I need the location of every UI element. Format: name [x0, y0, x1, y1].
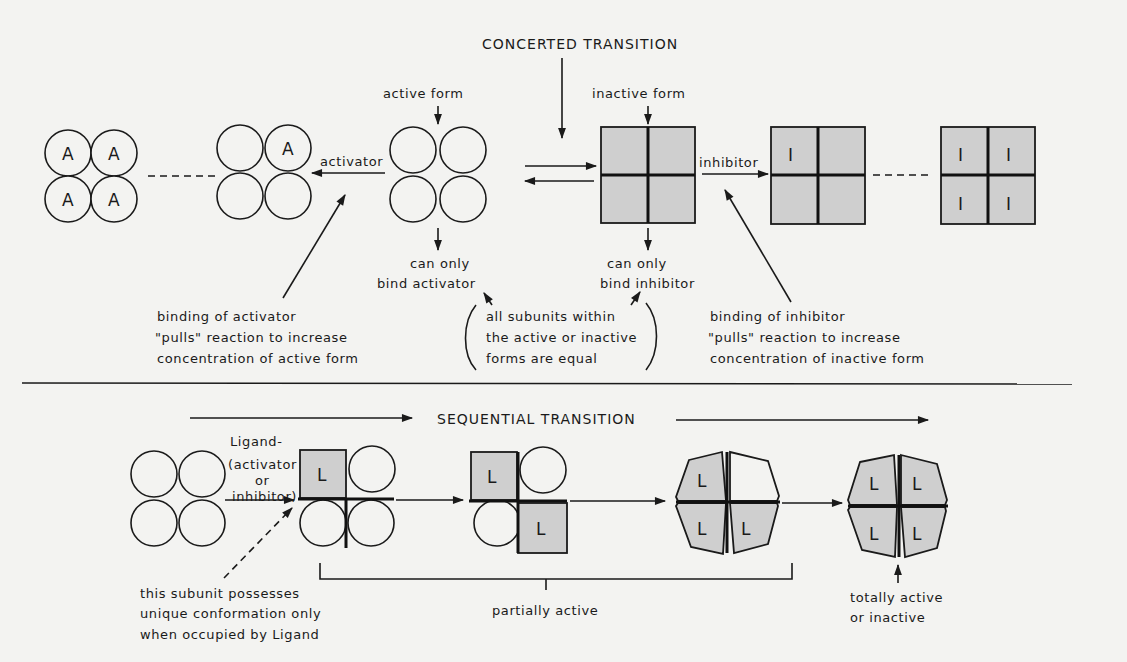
svg-text:concentration of active form: concentration of active form [157, 351, 359, 366]
svg-text:this subunit possesses: this subunit possesses [140, 586, 300, 601]
sequential-fully-bound: L L L L [848, 455, 948, 557]
svg-text:A: A [282, 139, 294, 159]
svg-text:unique conformation only: unique conformation only [140, 606, 321, 621]
subunit-note: this subunit possesses unique conformati… [140, 586, 321, 642]
svg-text:Ligand-: Ligand- [230, 434, 282, 449]
sequential-title: SEQUENTIAL TRANSITION [437, 411, 636, 427]
svg-text:or inactive: or inactive [850, 610, 925, 625]
svg-text:A: A [62, 190, 74, 210]
svg-text:the active or inactive: the active or inactive [486, 330, 637, 345]
svg-text:A: A [62, 144, 74, 164]
ligand-label: Ligand- (activator or inhibitor) [228, 434, 297, 504]
inhibitor-note: binding of inhibitor "pulls" reaction to… [708, 309, 925, 366]
subunit-note-pointer [224, 508, 292, 578]
svg-text:bind activator: bind activator [377, 276, 476, 291]
concerted-section: CONCERTED TRANSITION A A A A A activator… [45, 36, 1035, 370]
svg-text:L: L [869, 474, 879, 494]
svg-text:L: L [912, 524, 922, 544]
sequential-two-ligands: L L [469, 447, 567, 553]
svg-text:can only: can only [410, 256, 470, 271]
svg-text:L: L [536, 519, 546, 539]
svg-text:forms are equal: forms are equal [486, 351, 597, 366]
svg-text:bind inhibitor: bind inhibitor [600, 276, 695, 291]
activator-note: binding of activator "pulls" reaction to… [155, 309, 359, 366]
svg-text:when occupied by Ligand: when occupied by Ligand [140, 627, 319, 642]
svg-text:binding of activator: binding of activator [157, 309, 296, 324]
svg-text:I: I [1006, 194, 1011, 214]
inactive-form-label: inactive form [592, 86, 686, 101]
partially-active-label: partially active [492, 603, 598, 618]
svg-text:concentration of inactive form: concentration of inactive form [710, 351, 925, 366]
inactive-form-tetramer [601, 127, 695, 223]
svg-text:inhibitor): inhibitor) [232, 489, 297, 504]
svg-text:(activator: (activator [228, 457, 297, 472]
svg-text:L: L [697, 519, 707, 539]
svg-text:I: I [788, 145, 793, 165]
tetramer-fully-activated: A A A A [45, 130, 137, 222]
svg-text:A: A [108, 144, 120, 164]
svg-text:I: I [958, 145, 963, 165]
equal-subunits-note: all subunits within the active or inacti… [466, 292, 657, 370]
svg-text:"pulls" reaction to increase: "pulls" reaction to increase [708, 330, 901, 345]
tetramer-fully-inhibited: I I I I [941, 127, 1035, 224]
sequential-one-ligand: L [298, 446, 395, 548]
svg-text:L: L [869, 524, 879, 544]
active-form-label: active form [383, 86, 464, 101]
tetramer-one-activator: A [217, 125, 311, 219]
svg-text:all subunits within: all subunits within [486, 309, 616, 324]
concerted-title: CONCERTED TRANSITION [482, 36, 678, 52]
section-divider [22, 383, 1072, 384]
svg-text:can only: can only [607, 256, 667, 271]
svg-text:L: L [697, 471, 707, 491]
svg-text:I: I [958, 194, 963, 214]
svg-text:totally active: totally active [850, 590, 943, 605]
svg-text:L: L [317, 465, 327, 485]
sequential-unbound-tetramer [131, 451, 225, 546]
svg-text:L: L [741, 519, 751, 539]
allosteric-transition-figure: CONCERTED TRANSITION A A A A A activator… [0, 0, 1127, 662]
totally-active-label: totally active or inactive [850, 590, 943, 625]
svg-text:L: L [912, 474, 922, 494]
svg-text:L: L [487, 467, 497, 487]
svg-text:"pulls" reaction to increase: "pulls" reaction to increase [155, 330, 348, 345]
svg-text:I: I [1006, 145, 1011, 165]
svg-text:or: or [255, 473, 270, 488]
sequential-three-ligands: L L L [676, 452, 780, 554]
svg-text:A: A [108, 190, 120, 210]
inhibitor-arrow-label: inhibitor [699, 155, 758, 170]
activator-arrow-label: activator [320, 154, 383, 169]
sequential-section: SEQUENTIAL TRANSITION Ligand- (activator… [131, 411, 948, 642]
svg-text:binding of inhibitor: binding of inhibitor [710, 309, 845, 324]
partially-active-bracket [320, 563, 792, 579]
active-form-tetramer [390, 127, 486, 222]
tetramer-one-inhibitor: I [771, 127, 865, 224]
